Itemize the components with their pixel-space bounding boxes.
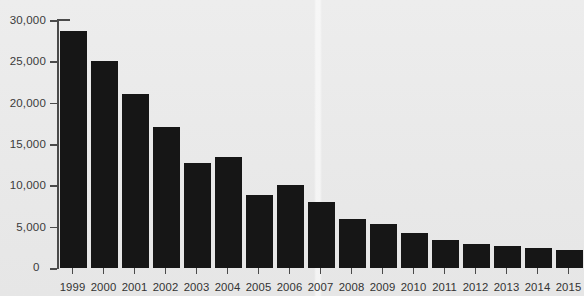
- x-axis-tick: [258, 268, 259, 274]
- x-axis-tick: [475, 268, 476, 274]
- x-axis-tick: [568, 268, 569, 274]
- bar: [277, 185, 304, 268]
- bar: [184, 163, 211, 268]
- bar: [401, 233, 428, 268]
- bar-group: 2015: [553, 20, 584, 268]
- bar: [246, 195, 273, 268]
- bar: [339, 219, 366, 268]
- x-axis-tick: [413, 268, 414, 274]
- bar-group: 2006: [274, 20, 305, 268]
- y-axis-label: 30,000: [10, 14, 46, 26]
- bar-chart: 5,00010,00015,00020,00025,00030,000 1999…: [0, 0, 584, 296]
- y-axis-label: 5,000: [16, 221, 46, 233]
- bar-group: 2001: [119, 20, 150, 268]
- x-axis-tick: [320, 268, 321, 274]
- y-axis-label: 25,000: [10, 55, 46, 67]
- x-axis-tick: [289, 268, 290, 274]
- x-axis-tick: [537, 268, 538, 274]
- x-axis-label: 2004: [212, 281, 243, 293]
- y-axis-tick: [50, 227, 57, 229]
- x-axis-label: 1999: [57, 281, 88, 293]
- x-axis-label: 2015: [553, 281, 584, 293]
- bar: [494, 246, 521, 268]
- x-axis-label: 2003: [181, 281, 212, 293]
- x-axis-tick: [196, 268, 197, 274]
- bar: [153, 127, 180, 268]
- y-axis-tick: [50, 185, 57, 187]
- x-axis-label: 2012: [460, 281, 491, 293]
- x-axis-label: 2002: [150, 281, 181, 293]
- x-axis-tick: [506, 268, 507, 274]
- y-axis-tick: [50, 20, 57, 22]
- bars-layer: 1999200020012002200320042005200620072008…: [57, 20, 577, 268]
- x-axis-label: 2006: [274, 281, 305, 293]
- y-axis-tick: [50, 103, 57, 105]
- bar: [91, 61, 118, 268]
- bar-group: 2010: [398, 20, 429, 268]
- bar: [60, 31, 87, 268]
- bar: [525, 248, 552, 268]
- x-axis-label: 2009: [367, 281, 398, 293]
- bar-group: 2008: [336, 20, 367, 268]
- bar-group: 2007: [305, 20, 336, 268]
- bar-group: 2002: [150, 20, 181, 268]
- x-axis-label: 2011: [429, 281, 460, 293]
- bar: [122, 94, 149, 268]
- bar: [556, 250, 583, 268]
- x-axis-label: 2008: [336, 281, 367, 293]
- bar-group: 2011: [429, 20, 460, 268]
- x-axis-label: 2005: [243, 281, 274, 293]
- x-axis-tick: [103, 268, 104, 274]
- x-axis-label: 2010: [398, 281, 429, 293]
- y-axis-label: 15,000: [10, 138, 46, 150]
- x-axis-tick: [351, 268, 352, 274]
- bar: [370, 224, 397, 268]
- x-axis-tick: [382, 268, 383, 274]
- bar: [308, 202, 335, 268]
- y-axis-label-zero: 0: [33, 261, 39, 273]
- y-axis-tick: [50, 61, 57, 63]
- bar-group: 2014: [522, 20, 553, 268]
- bar-group: 2000: [88, 20, 119, 268]
- bar: [463, 244, 490, 268]
- bar-group: 2013: [491, 20, 522, 268]
- y-axis-label: 10,000: [10, 179, 46, 191]
- x-axis-label: 2014: [522, 281, 553, 293]
- x-axis-tick: [165, 268, 166, 274]
- y-axis-label: 20,000: [10, 97, 46, 109]
- bar-group: 2004: [212, 20, 243, 268]
- bar-group: 2005: [243, 20, 274, 268]
- bar-group: 2012: [460, 20, 491, 268]
- x-axis-tick: [227, 268, 228, 274]
- x-axis-tick: [134, 268, 135, 274]
- x-axis-tick: [444, 268, 445, 274]
- x-axis-label: 2013: [491, 281, 522, 293]
- x-axis-tick: [72, 268, 73, 274]
- y-axis-tick: [50, 268, 57, 270]
- bar-group: 1999: [57, 20, 88, 268]
- x-axis-label: 2001: [119, 281, 150, 293]
- x-axis-label: 2007: [305, 281, 336, 293]
- bar: [432, 240, 459, 268]
- x-axis-label: 2000: [88, 281, 119, 293]
- bar-group: 2009: [367, 20, 398, 268]
- bar-group: 2003: [181, 20, 212, 268]
- bar: [215, 157, 242, 268]
- y-axis-tick: [50, 144, 57, 146]
